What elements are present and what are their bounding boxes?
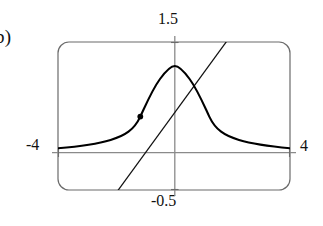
- viewport-frame: [58, 42, 290, 190]
- plot-canvas: [0, 0, 323, 226]
- graph-figure: b) 1.5 -0.5 -4 4 (−1, 0.5): [0, 0, 323, 226]
- tangency-point-marker: [137, 114, 143, 120]
